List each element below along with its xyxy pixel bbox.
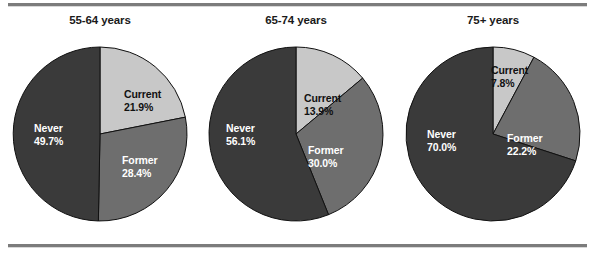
- pie-slices: [209, 47, 383, 221]
- pie-chart-75-plus: 75+ years Current 7.8% Former 22.2% Neve…: [395, 0, 591, 244]
- pie-chart-65-74: 65-74 years Current 13.9% Former 30.0% N…: [198, 0, 394, 244]
- figure-bottom-rule: [8, 244, 587, 247]
- pie-svg: [208, 46, 384, 222]
- pie-slices: [406, 47, 580, 221]
- pie-chart-55-64: 55-64 years Current 21.9% Former 28.4% N…: [2, 0, 198, 244]
- pie-area: Current 21.9% Former 28.4% Never 49.7%: [12, 46, 188, 222]
- chart-title: 55-64 years: [2, 14, 198, 26]
- pie-area: Current 13.9% Former 30.0% Never 56.1%: [208, 46, 384, 222]
- pie-chart-row: 55-64 years Current 21.9% Former 28.4% N…: [0, 0, 595, 244]
- figure-smoking-status-by-age: 55-64 years Current 21.9% Former 28.4% N…: [0, 0, 595, 262]
- pie-svg: [12, 46, 188, 222]
- pie-slice-never[interactable]: [13, 47, 100, 221]
- pie-svg: [405, 46, 581, 222]
- pie-slices: [13, 47, 187, 221]
- chart-title: 75+ years: [395, 14, 591, 26]
- chart-title: 65-74 years: [198, 14, 394, 26]
- pie-slice-former[interactable]: [98, 117, 187, 221]
- pie-area: Current 7.8% Former 22.2% Never 70.0%: [405, 46, 581, 222]
